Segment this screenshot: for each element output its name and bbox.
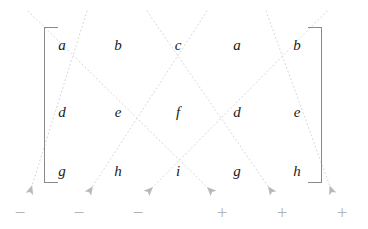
matrix-entry-r3c3: i [176, 164, 180, 179]
matrix-entry-r2c2: e [115, 105, 122, 120]
sign-label-2: − [74, 203, 85, 222]
matrix-entry-r3c5: h [293, 164, 301, 179]
matrix-bracket-right [308, 27, 322, 183]
sign-label-1: − [15, 203, 26, 222]
matrix-entry-r1c2: b [114, 38, 122, 53]
matrix-entry-r1c1: a [58, 38, 66, 53]
rule-of-sarrus-figure: abcabdefdeghigh −−−+++ [0, 0, 368, 229]
sign-label-3: − [133, 203, 144, 222]
positive-diagonal-2 [147, 11, 272, 192]
sign-label-4: + [217, 203, 228, 222]
matrix-entry-r3c1: g [58, 164, 66, 179]
negative-diagonal-2 [89, 11, 207, 192]
matrix-entry-r2c3: f [176, 105, 180, 120]
matrix-entry-r1c3: c [175, 38, 182, 53]
matrix-entry-r1c4: a [233, 38, 241, 53]
matrix-entry-r3c2: h [114, 164, 122, 179]
sign-label-6: + [337, 203, 348, 222]
sign-label-5: + [277, 203, 288, 222]
matrix-entry-r2c4: d [233, 105, 241, 120]
matrix-entry-r2c5: e [294, 105, 301, 120]
matrix-entry-r2c1: d [58, 105, 66, 120]
matrix-bracket-left [44, 27, 58, 183]
matrix-entry-r3c4: g [233, 164, 241, 179]
matrix-entry-r1c5: b [293, 38, 301, 53]
